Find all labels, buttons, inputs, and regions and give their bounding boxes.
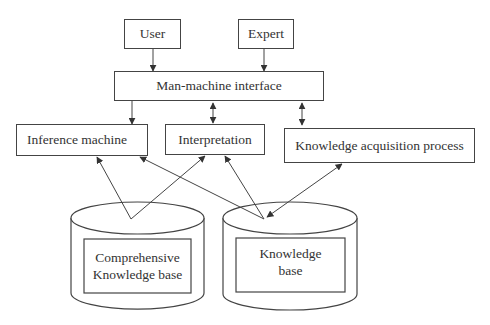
user-label: User: [140, 26, 166, 42]
interface-label: Man-machine interface: [156, 78, 282, 94]
inference-machine-box: Inference machine: [16, 124, 148, 156]
acquisition-label: Knowledge acquisition process: [295, 138, 464, 154]
man-machine-interface-box: Man-machine interface: [114, 71, 324, 101]
user-box: User: [124, 19, 181, 49]
knowledge-base-label: Knowledge base: [236, 238, 345, 286]
knowledge-acquisition-box: Knowledge acquisition process: [284, 128, 475, 163]
kb-line2: base: [279, 262, 303, 279]
interpretation-box: Interpretation: [165, 124, 265, 155]
ckb-line1: Comprehensive: [95, 249, 180, 266]
inference-label: Inference machine: [27, 132, 127, 148]
ckb-line2: Knowledge base: [93, 266, 183, 283]
interpretation-label: Interpretation: [178, 132, 251, 148]
expert-box: Expert: [238, 19, 294, 49]
expert-label: Expert: [248, 26, 284, 42]
comprehensive-knowledge-base-label: Comprehensive Knowledge base: [84, 239, 191, 293]
kb-line1: Knowledge: [259, 245, 321, 262]
